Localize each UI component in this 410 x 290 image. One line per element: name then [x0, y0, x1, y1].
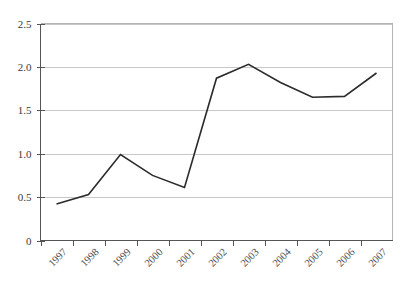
- y-tick-label-0.5: 0.5: [18, 191, 32, 203]
- line-chart: 00.51.01.52.02.5 19971998199920002001200…: [0, 0, 410, 290]
- y-tick-label-1.5: 1.5: [18, 104, 32, 116]
- y-tick-label-1.0: 1.0: [18, 148, 32, 160]
- y-tick-label-2.5: 2.5: [18, 18, 32, 30]
- y-tick-label-2.0: 2.0: [18, 61, 32, 73]
- y-tick-label-0: 0: [26, 235, 32, 247]
- chart-canvas: 00.51.01.52.02.5 19971998199920002001200…: [0, 0, 410, 290]
